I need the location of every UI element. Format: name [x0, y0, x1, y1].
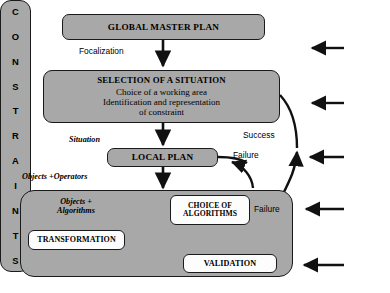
- node-choice-line-2: ALGORITHMS: [183, 210, 237, 219]
- edge-label-situation: Situation: [69, 135, 100, 144]
- edge-label-failure-local-plan: Failure: [233, 151, 259, 161]
- node-local-plan[interactable]: LOCAL PLAN: [107, 148, 218, 167]
- edge-success-upper: [280, 95, 297, 148]
- edge-label-success: Success: [243, 131, 275, 141]
- edge-label-objects-algorithms-line-2: Algorithms: [40, 206, 112, 215]
- node-transformation[interactable]: TRANSFORMATION: [28, 230, 125, 250]
- node-local-plan-label: LOCAL PLAN: [132, 152, 193, 162]
- node-selection-line-1: Choice of a working area: [116, 87, 207, 97]
- node-global-master-plan-label: GLOBAL MASTER PLAN: [108, 22, 219, 32]
- edge-label-objects-algorithms-line-1: Objects +: [40, 197, 112, 206]
- node-global-master-plan[interactable]: GLOBAL MASTER PLAN: [62, 14, 265, 40]
- edge-label-failure-validation: Failure: [254, 205, 280, 215]
- node-transformation-label: TRANSFORMATION: [37, 236, 116, 245]
- edge-failure-to-local-plan: [232, 162, 253, 188]
- edge-label-objects-operators: Objects +Operators: [22, 172, 87, 181]
- node-choice-of-algorithms[interactable]: CHOICE OF ALGORITHMS: [170, 195, 250, 225]
- diagram-canvas: GLOBAL MASTER PLAN SELECTION OF A SITUAT…: [0, 0, 390, 293]
- node-validation-label: VALIDATION: [204, 259, 257, 268]
- node-selection-title: SELECTION OF A SITUATION: [97, 76, 226, 86]
- edge-success-to-selection: [282, 152, 297, 196]
- node-selection-line-2: Identification and representation: [103, 97, 220, 107]
- node-selection-line-3: of constraint: [139, 107, 184, 117]
- edge-label-objects-algorithms: Objects + Algorithms: [40, 197, 112, 216]
- edge-label-focalization: Focalization: [79, 47, 124, 57]
- node-validation[interactable]: VALIDATION: [183, 254, 277, 273]
- node-selection-of-a-situation[interactable]: SELECTION OF A SITUATION Choice of a wor…: [43, 70, 280, 123]
